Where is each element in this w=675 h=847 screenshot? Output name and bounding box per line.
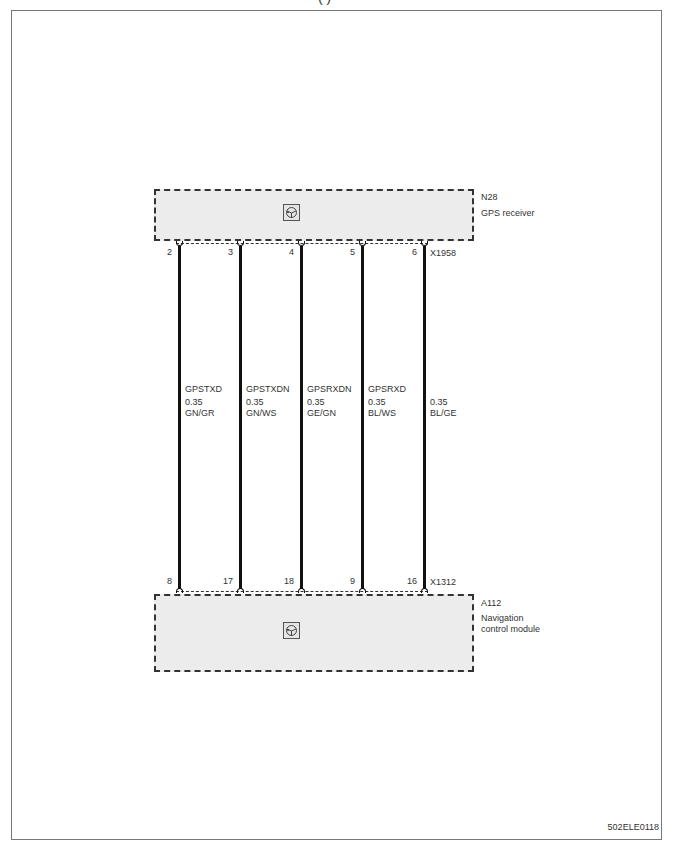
module-symbol-icon	[283, 204, 300, 221]
gps-receiver-module	[154, 189, 474, 241]
bottom-pin: 8	[152, 576, 172, 586]
navigation-control-module	[154, 594, 474, 672]
top-pin: 4	[274, 247, 294, 257]
top-module-name: GPS receiver	[481, 207, 535, 219]
wire-color: GN/GR	[185, 407, 215, 419]
pin-hook	[176, 588, 183, 593]
wire-gpsrxd	[361, 246, 364, 589]
bottom-pin: 18	[274, 576, 294, 586]
module-symbol-icon	[283, 622, 300, 639]
wire-signal: GPSRXD	[368, 383, 406, 395]
wire-signal: GPSTXDN	[246, 383, 290, 395]
wire-color: GN/WS	[246, 407, 277, 419]
wire-color: BL/WS	[368, 407, 396, 419]
top-pin: 3	[213, 247, 233, 257]
top-pin: 2	[152, 247, 172, 257]
wire-gpstxd	[178, 246, 181, 589]
diagram-frame	[11, 10, 662, 840]
wire-bl-ge	[423, 246, 426, 589]
pin-hook	[359, 588, 366, 593]
bottom-pin: 17	[213, 576, 233, 586]
bottom-pin: 9	[335, 576, 355, 586]
pin-hook	[421, 588, 428, 593]
figure-id: 502ELE0118	[608, 822, 659, 832]
title-fragment: ( )	[318, 0, 331, 3]
bottom-connector-id: X1312	[430, 576, 456, 588]
bottom-pin: 16	[397, 576, 417, 586]
wire-gpsrxdn	[300, 246, 303, 589]
bottom-module-code: A112	[481, 597, 501, 609]
top-connector-id: X1958	[430, 247, 456, 259]
wire-signal: GPSRXDN	[307, 383, 352, 395]
wire-color: GE/GN	[307, 407, 336, 419]
bottom-module-name-line2: control module	[481, 623, 540, 635]
top-pin: 6	[397, 247, 417, 257]
pin-hook	[298, 588, 305, 593]
top-pin: 5	[335, 247, 355, 257]
pin-hook	[237, 588, 244, 593]
wire-gpstxdn	[239, 246, 242, 589]
wire-color: BL/GE	[430, 407, 457, 419]
top-module-code: N28	[481, 191, 498, 203]
wire-signal: GPSTXD	[185, 383, 222, 395]
